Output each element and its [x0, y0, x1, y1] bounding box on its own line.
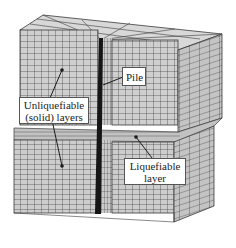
unliquefiable-layers-label: Unliquefiable (solid) layers	[19, 97, 89, 124]
liquefiable-label-line2: layer	[128, 172, 182, 184]
mesh-drawing	[0, 0, 236, 248]
unliquefiable-label-line2: (solid) layers	[23, 111, 85, 123]
upper-unliquefiable-side	[178, 34, 222, 132]
pile-label: Pile	[122, 67, 146, 86]
unliquefiable-label-line1: Unliquefiable	[23, 99, 85, 111]
liquefiable-label-line1: Liquefiable	[128, 160, 182, 172]
mesh-figure: Pile Unliquefiable (solid) layers Liquef…	[0, 0, 236, 248]
pile-label-text: Pile	[126, 71, 143, 83]
liquefiable-layer-label: Liquefiable layer	[124, 158, 186, 185]
